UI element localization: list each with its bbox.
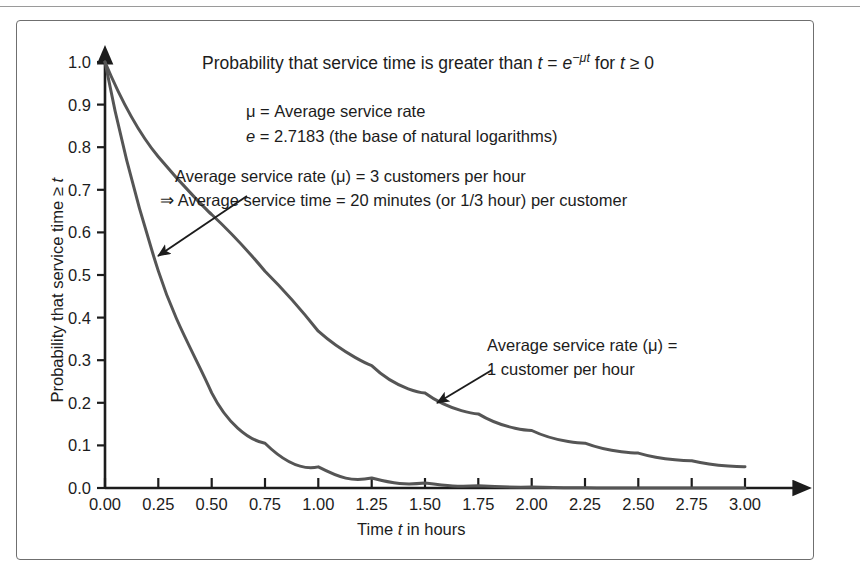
y-tick-label: 0.4 — [47, 309, 91, 328]
curve-mu-3 — [105, 62, 745, 488]
figure-page: Probability that service time is greater… — [0, 0, 860, 577]
y-tick-label: 0.3 — [47, 351, 91, 370]
y-tick-label: 0.7 — [47, 181, 91, 200]
x-tick-label: 0.50 — [184, 495, 240, 514]
x-tick-label: 2.25 — [557, 495, 613, 514]
x-tick-label: 0.75 — [237, 495, 293, 514]
curve-mu-1 — [105, 62, 745, 467]
chart-plot-area — [0, 0, 860, 577]
title-var-e: e — [562, 53, 572, 73]
chart-title: Probability that service time is greater… — [202, 52, 654, 72]
x-tick-label: 2.50 — [610, 495, 666, 514]
y-tick-label: 0.2 — [47, 394, 91, 413]
note-e-definition: e = 2.7183 (the base of natural logarith… — [246, 128, 557, 145]
y-tick-label: 0.9 — [47, 96, 91, 115]
x-tick-label: 0.25 — [130, 495, 186, 514]
x-tick-label: 0.00 — [77, 495, 133, 514]
x-axis-title: Time t in hours — [357, 521, 466, 538]
note-var-e: e — [246, 127, 255, 145]
x-tick-label: 3.00 — [717, 495, 773, 514]
annotation-mu-3-line1: Average service rate (μ) = 3 customers p… — [175, 168, 526, 185]
x-tick-label: 1.75 — [450, 495, 506, 514]
leader-arrow-mu-1 — [437, 370, 492, 403]
y-tick-label: 0.6 — [47, 223, 91, 242]
annotation-mu-1-line2: 1 customer per hour — [487, 361, 635, 378]
y-tick-label: 0.8 — [47, 138, 91, 157]
y-tick-label: 0.5 — [47, 266, 91, 285]
x-tick-label: 2.00 — [504, 495, 560, 514]
note-mu-definition: μ = Average service rate — [246, 103, 425, 120]
annotation-mu-1-line1: Average service rate (μ) = — [487, 337, 677, 354]
x-tick-label: 1.50 — [397, 495, 453, 514]
annotation-mu-3-line2: ⇒ Average service time = 20 minutes (or … — [160, 192, 627, 209]
y-tick-label: 1.0 — [47, 53, 91, 72]
x-tick-label: 1.00 — [290, 495, 346, 514]
title-exponent: −μt — [572, 51, 590, 65]
x-tick-label: 1.25 — [344, 495, 400, 514]
x-tick-label: 2.75 — [664, 495, 720, 514]
y-tick-label: 0.1 — [47, 436, 91, 455]
